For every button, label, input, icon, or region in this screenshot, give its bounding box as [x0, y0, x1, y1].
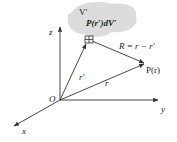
field-point-label: P(r): [146, 65, 160, 75]
source-vector-label: r′: [79, 72, 86, 82]
field-vector-label: r: [105, 78, 109, 88]
field-position-vector: [60, 64, 144, 100]
volume-label: V′: [79, 7, 87, 17]
volume-element-icon: [85, 36, 93, 43]
x-axis-label: x: [21, 126, 26, 136]
z-axis-label: z: [48, 27, 53, 37]
electrostatics-diagram: V′ P(r′)dV′ R = r − r′ P(r) r′ r O z y x: [0, 0, 177, 142]
separation-label: R = r − r′: [118, 41, 156, 51]
y-axis-label: y: [160, 104, 165, 114]
origin-label: O: [49, 94, 56, 104]
element-label: P(r′)dV′: [86, 18, 117, 28]
